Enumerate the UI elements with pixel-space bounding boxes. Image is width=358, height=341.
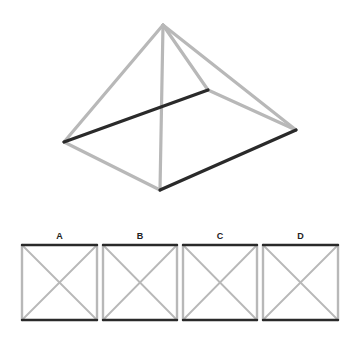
answer-options: ABCD [19, 230, 341, 323]
pyramid-figure [64, 25, 296, 190]
option-d[interactable]: D [260, 230, 341, 323]
pyramid-edge-left-front [64, 142, 160, 190]
option-label: B [137, 231, 144, 241]
pyramid-edge-front-right [160, 130, 296, 190]
option-label: C [217, 231, 224, 241]
pyramid-edge-apex-right [163, 25, 296, 130]
option-c[interactable]: C [180, 230, 260, 323]
option-label: D [297, 231, 304, 241]
option-a[interactable]: A [19, 230, 100, 323]
puzzle-canvas: ABCD [0, 0, 358, 341]
pyramid-edge-apex-back [163, 25, 208, 90]
option-label: A [56, 231, 63, 241]
option-b[interactable]: B [100, 230, 180, 323]
